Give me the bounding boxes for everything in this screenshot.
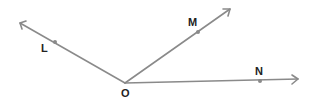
- angle-diagram: L M N O: [0, 0, 313, 102]
- label-m: M: [188, 16, 197, 28]
- ray-ol: L: [20, 21, 125, 83]
- ray-on: N: [125, 65, 298, 84]
- point-m: [196, 30, 200, 34]
- point-l: [53, 40, 57, 44]
- point-n: [258, 79, 262, 83]
- label-o: O: [121, 87, 130, 99]
- ray-om: M: [125, 9, 230, 83]
- label-l: L: [41, 42, 48, 54]
- label-n: N: [255, 65, 263, 77]
